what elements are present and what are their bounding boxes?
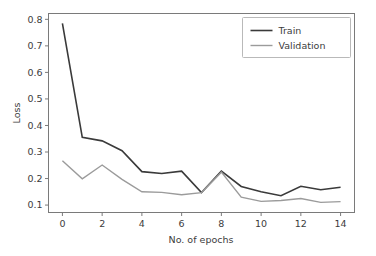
y-axis-title: Loss xyxy=(11,103,22,124)
y-tick-label: 0.1 xyxy=(27,199,42,210)
x-tick-label: 0 xyxy=(59,218,65,229)
y-tick-label: 0.8 xyxy=(27,14,42,25)
line-chart: 0.10.20.30.40.50.60.70.8 02468101214 Tra… xyxy=(0,0,376,256)
x-axis-ticks: 02468101214 xyxy=(59,213,346,230)
x-axis-title: No. of epochs xyxy=(169,234,234,245)
y-tick-label: 0.4 xyxy=(27,120,42,131)
x-tick-label: 12 xyxy=(295,218,307,229)
x-tick-label: 14 xyxy=(335,218,347,229)
legend-label-train: Train xyxy=(278,25,302,36)
y-tick-label: 0.2 xyxy=(27,173,42,184)
legend-label-validation: Validation xyxy=(279,40,326,51)
x-tick-label: 6 xyxy=(179,218,185,229)
series-line-validation xyxy=(62,161,340,203)
y-tick-label: 0.5 xyxy=(27,93,42,104)
legend-frame xyxy=(243,18,351,58)
y-axis-ticks: 0.10.20.30.40.50.60.70.8 xyxy=(27,14,48,211)
x-tick-label: 4 xyxy=(139,218,145,229)
x-tick-label: 2 xyxy=(99,218,105,229)
x-tick-label: 10 xyxy=(255,218,267,229)
y-tick-label: 0.7 xyxy=(27,40,42,51)
figure-canvas: 0.10.20.30.40.50.60.70.8 02468101214 Tra… xyxy=(0,0,376,256)
y-tick-label: 0.6 xyxy=(27,67,42,78)
y-tick-label: 0.3 xyxy=(27,146,42,157)
x-tick-label: 8 xyxy=(218,218,224,229)
chart-legend: TrainValidation xyxy=(243,18,351,58)
